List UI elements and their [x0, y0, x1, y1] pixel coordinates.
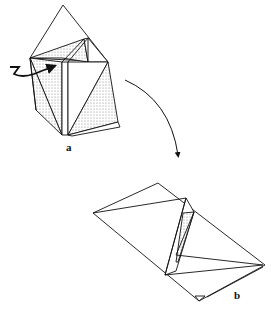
step-label-a: a [66, 141, 72, 153]
origami-diagram [0, 0, 271, 309]
step-label-b: b [234, 289, 240, 301]
figure-b [93, 183, 265, 301]
turn-over-arrow [125, 80, 178, 155]
